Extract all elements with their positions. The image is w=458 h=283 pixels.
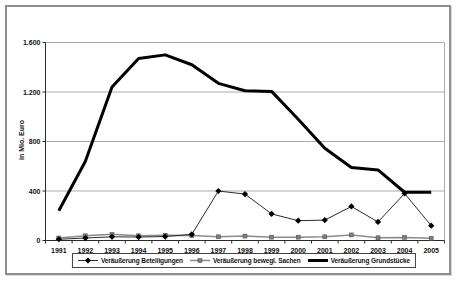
- chart-canvas: 04008001.2001.60019911992199319941995199…: [0, 0, 458, 283]
- y-tick-label: 400: [29, 188, 41, 195]
- data-point-square: [270, 235, 274, 239]
- data-point-square: [243, 234, 247, 238]
- legend-label-bewegl-sachen: Veräußerung bewegl. Sachen: [213, 257, 301, 264]
- thick-line-icon: [308, 256, 328, 265]
- series-line-2: [59, 55, 431, 211]
- data-point-diamond: [322, 217, 328, 223]
- data-point-square: [376, 236, 380, 240]
- square-marker-icon: [190, 256, 210, 265]
- diamond-marker-icon: [78, 256, 98, 265]
- series-line-0: [59, 191, 431, 239]
- y-tick-label: 0: [37, 237, 41, 244]
- data-point-square: [429, 236, 433, 240]
- data-point-square: [323, 235, 327, 239]
- x-tick-label: 2005: [423, 247, 439, 254]
- legend-label-grundstuecke: Veräußerung Grundstücke: [331, 257, 410, 264]
- data-point-square: [349, 233, 353, 237]
- legend: Veräußerung Beteiligungen Veräußerung be…: [72, 253, 416, 268]
- legend-item-grundstuecke: Veräußerung Grundstücke: [308, 256, 410, 265]
- legend-label-beteiligungen: Veräußerung Beteiligungen: [101, 257, 183, 264]
- data-point-square: [296, 235, 300, 239]
- chart-screenshot: 04008001.2001.60019911992199319941995199…: [0, 0, 458, 283]
- data-point-square: [216, 235, 220, 239]
- y-tick-label: 800: [29, 138, 41, 145]
- legend-item-bewegl-sachen: Veräußerung bewegl. Sachen: [190, 256, 301, 265]
- y-tick-label: 1.600: [23, 39, 41, 46]
- y-tick-label: 1.200: [23, 89, 41, 96]
- data-point-diamond: [295, 218, 301, 224]
- data-point-diamond: [348, 203, 354, 209]
- data-point-diamond: [215, 188, 221, 194]
- x-tick-label: 1991: [51, 247, 67, 254]
- y-axis-title: in Mio. Euro: [18, 120, 25, 160]
- data-point-square: [403, 235, 407, 239]
- legend-item-beteiligungen: Veräußerung Beteiligungen: [78, 256, 183, 265]
